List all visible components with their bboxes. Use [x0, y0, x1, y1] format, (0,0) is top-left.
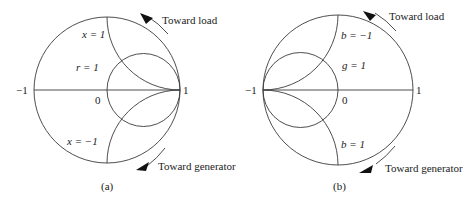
impedance-chart-a: −1 0 1 x = 1 r = 1 x = −1 Toward load To…: [16, 13, 236, 193]
label-b-equals-minus-1: b = −1: [341, 29, 372, 41]
caption-b: (b): [333, 180, 346, 193]
label-0: 0: [95, 94, 101, 106]
label-x-equals-minus-1: x = −1: [66, 135, 98, 147]
toward-load-arrowhead-icon: [140, 13, 153, 24]
toward-load-arrowhead-icon: [363, 11, 376, 21]
label-1: 1: [183, 84, 189, 96]
label-r-equals-1: r = 1: [76, 61, 99, 73]
label-toward-load: Toward load: [389, 10, 445, 22]
label-toward-generator: Toward generator: [385, 162, 463, 174]
admittance-chart-b: −1 0 1 b = −1 g = 1 b = 1 Toward load To…: [245, 10, 463, 193]
label-toward-generator: Toward generator: [158, 160, 236, 172]
label-1: 1: [416, 84, 422, 96]
smith-chart-figure: −1 0 1 x = 1 r = 1 x = −1 Toward load To…: [0, 0, 473, 199]
caption-a: (a): [101, 180, 114, 193]
label-0: 0: [342, 94, 348, 106]
label-minus-1: −1: [16, 84, 28, 96]
label-x-equals-1: x = 1: [81, 28, 105, 40]
label-toward-load: Toward load: [162, 14, 218, 26]
toward-generator-arrowhead-icon: [136, 162, 149, 171]
toward-generator-arrowhead-icon: [359, 165, 373, 173]
label-g-equals-1: g = 1: [342, 59, 366, 71]
label-b-equals-1: b = 1: [341, 138, 365, 150]
label-minus-1: −1: [245, 84, 257, 96]
